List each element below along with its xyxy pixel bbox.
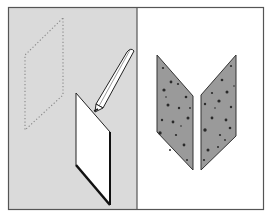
right-panel [137,7,263,210]
diagram [0,0,268,215]
left-panel [8,7,137,210]
